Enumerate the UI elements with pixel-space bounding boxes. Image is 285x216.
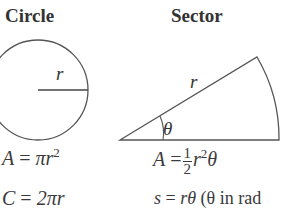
sector-radius-label: r xyxy=(190,71,198,92)
sector-angle-label: θ xyxy=(163,118,172,139)
one-half-fraction: 12 xyxy=(183,146,193,177)
area-symbol: A xyxy=(153,148,165,170)
sector-figure: r θ xyxy=(120,57,279,140)
exponent: 2 xyxy=(53,145,60,160)
radius-var: r xyxy=(193,148,201,170)
arc-note: (θ in rad xyxy=(201,188,262,208)
circle-figure: r xyxy=(0,40,88,140)
circumference-rhs: 2πr xyxy=(37,187,65,209)
sector-area-formula: A =12r2θ xyxy=(153,146,217,177)
theta-var: θ xyxy=(207,148,217,170)
circle-radius-label: r xyxy=(56,63,64,84)
sector-arc-formula: s = rθ (θ in rad xyxy=(154,188,261,209)
area-symbol: A xyxy=(2,147,14,169)
circle-area-formula: A = πr2 xyxy=(2,145,60,170)
denominator: 2 xyxy=(183,162,193,177)
arc-rhs: rθ xyxy=(180,188,196,208)
arc-length-symbol: s xyxy=(154,188,161,208)
circle-circumference-formula: C = 2πr xyxy=(2,187,64,210)
geometry-diagram: r r θ xyxy=(0,0,285,216)
circumference-symbol: C xyxy=(2,187,15,209)
pi-symbol: π xyxy=(36,147,46,169)
numerator: 1 xyxy=(183,146,193,162)
